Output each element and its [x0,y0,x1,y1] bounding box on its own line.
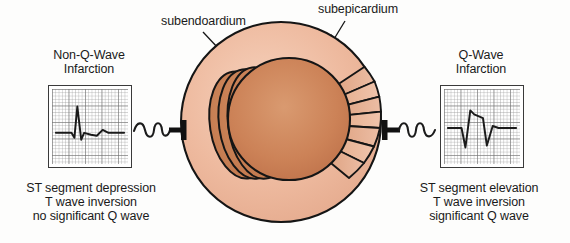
infarct-core [228,58,350,180]
lead-coil-left [134,123,170,137]
lead-coil-right [399,123,435,137]
figure-root: subendoardium subepicardium [0,0,570,243]
lead-shaft-right [386,128,400,133]
ecg-trace-left [52,89,128,164]
ecg-trace-right [444,89,520,164]
right-panel-caption-line3: significant Q wave [390,209,568,224]
lead-shaft-left [169,128,183,133]
electrode-head-left [181,120,187,140]
q-wave-ecg-strip [440,85,524,168]
right-panel-caption-line1: ST segment elevation [390,181,568,196]
left-panel-caption-line1: ST segment depression [2,181,180,196]
ecg-strip-inner-right [444,89,520,164]
electrode-lead-left [132,112,192,142]
right-panel-caption-line2: T wave inversion [390,195,568,210]
ecg-strip-inner-left [52,89,128,164]
right-panel-title-line2: Infarction [406,62,556,77]
left-panel-caption-line3: no significant Q wave [2,209,180,224]
left-panel-caption-line2: T wave inversion [2,195,180,210]
heart-cross-section [168,18,408,230]
non-q-wave-ecg-strip [48,85,132,168]
label-subepicardium: subepicardium [288,2,428,17]
right-panel-title-line1: Q-Wave [406,48,556,63]
left-panel-title-line1: Non-Q-Wave [14,48,164,63]
electrode-lead-right [380,112,442,142]
left-panel-title-line2: Infarction [14,62,164,77]
